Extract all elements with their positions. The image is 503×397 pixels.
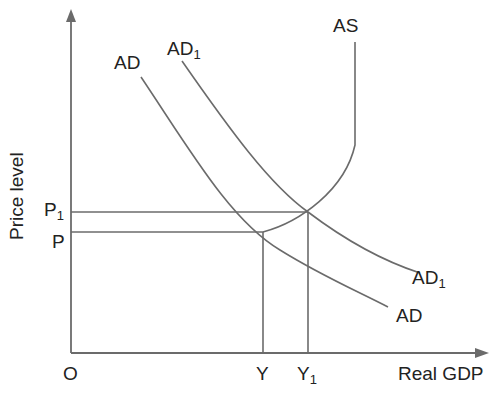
p1-label-text: P — [44, 199, 57, 220]
y-axis-label: Price level — [6, 152, 28, 240]
ad1-label-bottom: AD1 — [412, 268, 446, 290]
x-axis-label: Real GDP — [398, 364, 484, 383]
ad1-curve — [182, 61, 420, 273]
ad-label-top: AD — [114, 53, 140, 72]
y-label: Y — [256, 364, 269, 383]
y1-label-sub: 1 — [310, 372, 317, 387]
ad-label-bottom: AD — [396, 306, 422, 325]
y1-label-text: Y — [297, 363, 310, 384]
ad1-label-bottom-sub: 1 — [438, 276, 445, 291]
p1-label: P1 — [44, 200, 64, 222]
p-label: P — [52, 232, 65, 251]
diagram-canvas — [0, 0, 503, 397]
x-axis-arrow-icon — [475, 348, 489, 358]
ad-label-top-text: AD — [114, 52, 140, 73]
as-curve — [263, 42, 355, 232]
origin-label: O — [63, 364, 78, 383]
ad1-label-top: AD1 — [167, 39, 201, 61]
y-axis-arrow-icon — [66, 9, 76, 22]
ad-curve — [141, 77, 388, 307]
as-label: AS — [333, 16, 358, 35]
y1-label: Y1 — [297, 364, 317, 386]
p1-label-sub: 1 — [57, 208, 64, 223]
ad1-label-bottom-text: AD — [412, 267, 438, 288]
ad1-label-top-text: AD — [167, 38, 193, 59]
ad1-label-top-sub: 1 — [193, 47, 200, 62]
